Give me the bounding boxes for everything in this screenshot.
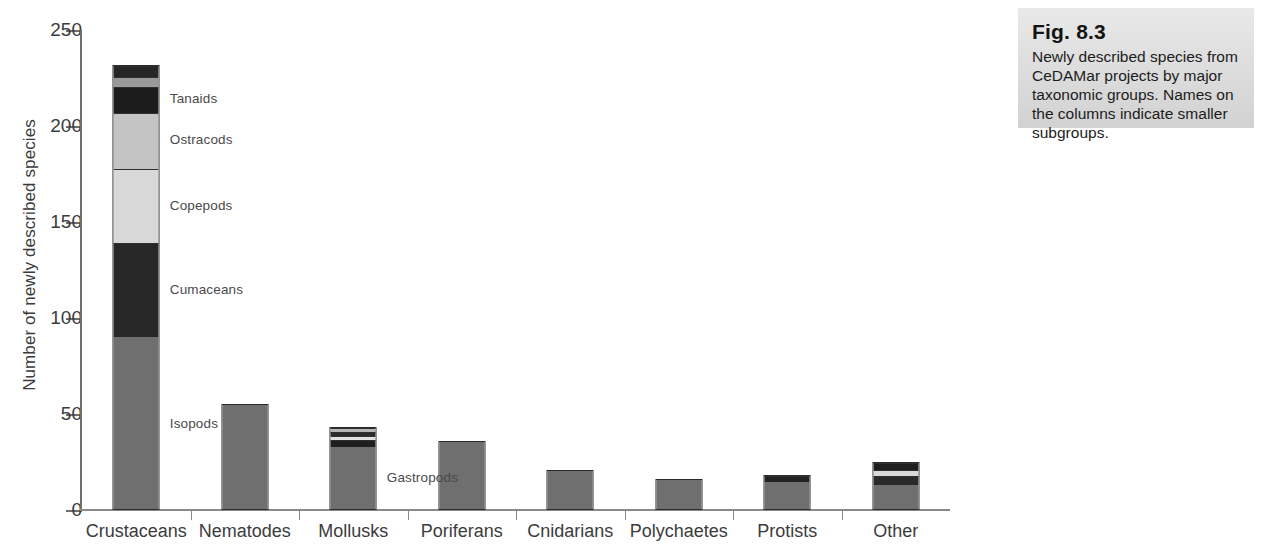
y-tick-label: 200 [22,115,82,137]
x-tick-mark [299,511,300,520]
y-tick-label: 100 [22,307,82,329]
bar-segment-cnidarians[interactable] [548,471,593,509]
y-axis-title: Number of newly described species [20,45,40,465]
bar-segment-isopods[interactable] [114,337,159,509]
figure-caption-title: Fig. 8.3 [1032,20,1241,44]
bar-group[interactable] [299,30,408,510]
x-category-label-mollusks: Mollusks [299,521,408,542]
bar-cnidarians[interactable] [547,470,594,510]
x-tick-mark [516,511,517,520]
bar-other[interactable] [872,462,919,510]
x-tick-mark [842,511,843,520]
bar-segment-ostracods[interactable] [114,113,159,168]
bar-segment-copepods[interactable] [114,169,159,244]
bar-segment-subgroup-4[interactable] [873,463,918,470]
segment-annotation-ostracods: Ostracods [170,132,233,147]
x-category-label-polychaetes: Polychaetes [625,521,734,542]
bar-segment-cumaceans[interactable] [114,243,159,337]
x-category-label-crustaceans: Crustaceans [82,521,191,542]
bar-group[interactable] [842,30,951,510]
bar-segment-subgroup-7[interactable] [114,66,159,77]
y-tick-label: 0 [22,499,82,521]
bar-nematodes[interactable] [221,404,268,510]
bar-segment-subgroup-1[interactable] [873,485,918,509]
figure-container: Number of newly described species 050100… [0,0,1000,555]
segment-annotation-copepods: Copepods [170,198,233,213]
bar-segment-polychaetes[interactable] [656,480,701,509]
bar-segment-subgroup-4[interactable] [331,432,376,436]
segment-annotation-gastropods: Gastropods [387,470,458,485]
y-tick-label: 50 [22,403,82,425]
x-tick-mark [191,511,192,520]
bar-segment-subgroup-1[interactable] [765,482,810,509]
figure-caption-box: Fig. 8.3 Newly described species from Ce… [1018,8,1254,128]
bar-crustaceans[interactable] [113,65,160,510]
x-category-label-protists: Protists [733,521,842,542]
bar-segment-subgroup-5[interactable] [331,428,376,432]
x-category-label-poriferans: Poriferans [408,521,517,542]
bar-segment-subgroup-6[interactable] [114,77,159,87]
bar-segment-subgroup-2[interactable] [765,476,810,481]
y-tick-label: 150 [22,211,82,233]
bar-segment-subgroup-2[interactable] [873,476,918,485]
bar-group[interactable] [625,30,734,510]
bar-group[interactable] [733,30,842,510]
x-category-label-other: Other [842,521,951,542]
bar-polychaetes[interactable] [655,479,702,510]
segment-annotation-isopods: Isopods [170,416,218,431]
segment-annotation-tanaids: Tanaids [170,91,218,106]
x-tick-mark [733,511,734,520]
bar-segment-nematodes[interactable] [222,405,267,509]
segment-annotation-cumaceans: Cumaceans [170,282,243,297]
x-tick-mark [408,511,409,520]
bar-segment-gastropods[interactable] [331,447,376,509]
y-tick-label: 250 [22,19,82,41]
x-category-label-cnidarians: Cnidarians [516,521,625,542]
x-tick-mark [625,511,626,520]
bar-protists[interactable] [764,475,811,510]
bar-segment-tanaids[interactable] [114,87,159,114]
bar-group[interactable] [516,30,625,510]
bar-group[interactable] [408,30,517,510]
bar-segment-subgroup-3[interactable] [873,470,918,476]
figure-caption-text: Newly described species from CeDAMar pro… [1032,48,1241,143]
x-category-label-nematodes: Nematodes [191,521,300,542]
bar-segment-subgroup-2[interactable] [331,440,376,448]
bar-mollusks[interactable] [330,427,377,510]
bar-segment-subgroup-3[interactable] [331,436,376,440]
